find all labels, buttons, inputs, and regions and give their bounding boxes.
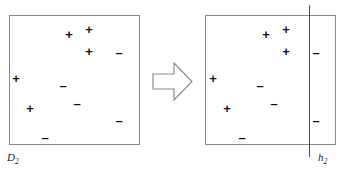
arrow-shape <box>153 63 192 100</box>
negative-example-marker: – <box>41 131 48 144</box>
negative-example-marker: – <box>270 97 277 110</box>
negative-example-marker: – <box>115 46 122 59</box>
negative-example-marker: – <box>115 114 122 127</box>
negative-example-marker: – <box>73 97 80 110</box>
negative-example-marker: – <box>238 131 245 144</box>
hypothesis-boundary-line <box>309 5 310 157</box>
positive-example-marker: + <box>85 45 93 58</box>
positive-example-marker: + <box>85 23 93 36</box>
negative-example-marker: – <box>256 79 263 92</box>
negative-example-marker: – <box>312 46 319 59</box>
positive-example-marker: + <box>209 72 217 85</box>
concept-learning-figure: +++–+––+–– D2 +++–+––+–– h2 <box>0 0 345 174</box>
positive-example-marker: + <box>282 45 290 58</box>
positive-example-marker: + <box>26 102 34 115</box>
negative-example-marker: – <box>312 114 319 127</box>
dataset-label-d2: D2 <box>7 152 19 166</box>
transform-arrow <box>152 62 193 101</box>
negative-example-marker: – <box>59 79 66 92</box>
positive-example-marker: + <box>282 23 290 36</box>
positive-example-marker: + <box>12 72 20 85</box>
label-subscript: 2 <box>324 157 328 166</box>
hypothesis-label-h2: h2 <box>318 152 327 166</box>
positive-example-marker: + <box>262 28 270 41</box>
label-subscript: 2 <box>15 157 19 166</box>
positive-example-marker: + <box>223 102 231 115</box>
positive-example-marker: + <box>65 28 73 41</box>
